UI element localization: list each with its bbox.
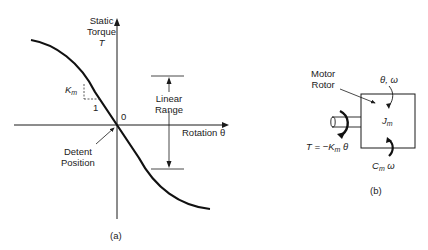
inertia-label: Jm (382, 115, 393, 129)
rotor-pointer (340, 89, 375, 103)
linear-range-line1: Linear (155, 93, 183, 104)
y-axis-label-line1: Static (87, 15, 116, 26)
y-axis-symbol: T (87, 37, 116, 48)
caption-b: (b) (370, 185, 382, 196)
damping-symbol: C (372, 160, 379, 171)
state-arrow (389, 86, 393, 106)
detent-label-line2: Position (61, 157, 95, 168)
rotor-label-line2: Rotor (311, 79, 335, 90)
detent-label: Detent Position (61, 146, 95, 168)
torque-eq-prefix: T = −K (306, 141, 335, 152)
y-axis-label: Static Torque T (87, 15, 116, 48)
damping-label: Cm ω (372, 160, 395, 174)
linear-range-label: Linear Range (155, 93, 183, 115)
caption-a: (a) (110, 230, 122, 241)
slope-label: Km (65, 84, 77, 98)
inertia-subscript: m (387, 120, 393, 127)
slope-run-label: 1 (93, 102, 98, 113)
rotor-label: Motor Rotor (311, 68, 335, 90)
y-axis-label-line2: Torque (87, 26, 116, 37)
rotor-label-line1: Motor (311, 68, 335, 79)
linear-range-line2: Range (155, 104, 183, 115)
x-axis-label: Rotation θ (182, 127, 225, 138)
torque-equation: T = −Km θ (306, 141, 348, 155)
torque-eq-suffix: θ (340, 141, 348, 152)
detent-pointer (96, 128, 114, 144)
slope-subscript: m (71, 89, 77, 96)
diagram-canvas (0, 0, 428, 250)
linear-range-indicator (151, 76, 184, 169)
state-label: θ, ω (380, 74, 398, 85)
y-axis (114, 18, 120, 219)
origin-label: 0 (121, 111, 126, 122)
detent-label-line1: Detent (61, 146, 95, 157)
torque-arrow (340, 111, 348, 135)
damping-suffix: ω (385, 160, 395, 171)
